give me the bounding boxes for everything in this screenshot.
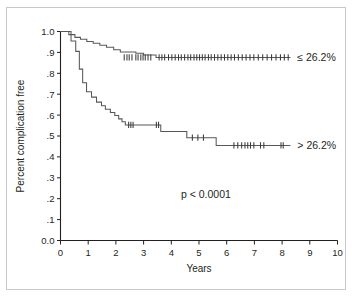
y-tick-label: .5 bbox=[47, 130, 55, 141]
y-axis-title: Percent complication free bbox=[15, 79, 26, 192]
y-tick-label: .2 bbox=[47, 193, 55, 204]
series-labels: ≤ 26.2%> 26.2% bbox=[297, 51, 336, 151]
x-tick-label: 1 bbox=[86, 247, 91, 258]
series-label-high-group: > 26.2% bbox=[297, 139, 336, 151]
x-tick-label: 7 bbox=[252, 247, 257, 258]
y-tick-label: .8 bbox=[47, 68, 55, 79]
y-tick-label: .4 bbox=[47, 151, 55, 162]
y-tick-label: 1.0 bbox=[41, 26, 54, 37]
x-tick-label: 6 bbox=[224, 247, 229, 258]
y-tick-label: .7 bbox=[47, 89, 55, 100]
x-tick-label: 0 bbox=[58, 247, 63, 258]
x-tick-label: 3 bbox=[141, 247, 146, 258]
kaplan-meier-figure: 0.0.1.2.3.4.5.6.7.8.91.0 012345678910 ≤ … bbox=[0, 0, 352, 299]
plot-area: 0.0.1.2.3.4.5.6.7.8.91.0 012345678910 ≤ … bbox=[0, 0, 352, 299]
x-tick-label: 9 bbox=[307, 247, 312, 258]
y-tick-label: .3 bbox=[47, 172, 55, 183]
chart-annotations: p < 0.0001 bbox=[181, 188, 231, 200]
x-axis-ticks: 012345678910 bbox=[58, 241, 343, 258]
x-tick-label: 2 bbox=[113, 247, 118, 258]
curve-low-group bbox=[61, 32, 291, 58]
series-label-low-group: ≤ 26.2% bbox=[297, 51, 335, 63]
curve-high-group bbox=[61, 32, 291, 146]
annotation-p-value: p < 0.0001 bbox=[181, 188, 231, 200]
y-axis-ticks: 0.0.1.2.3.4.5.6.7.8.91.0 bbox=[41, 26, 60, 246]
y-tick-label: .1 bbox=[47, 214, 55, 225]
censoring-marks bbox=[124, 54, 288, 148]
y-tick-label: .9 bbox=[47, 47, 55, 58]
x-axis-title: Years bbox=[186, 263, 211, 274]
x-tick-label: 10 bbox=[332, 247, 343, 258]
x-tick-label: 5 bbox=[196, 247, 201, 258]
y-tick-label: 0.0 bbox=[41, 235, 54, 246]
y-tick-label: .6 bbox=[47, 110, 55, 121]
survival-curves bbox=[61, 32, 291, 146]
x-tick-label: 8 bbox=[279, 247, 284, 258]
x-tick-label: 4 bbox=[169, 247, 174, 258]
